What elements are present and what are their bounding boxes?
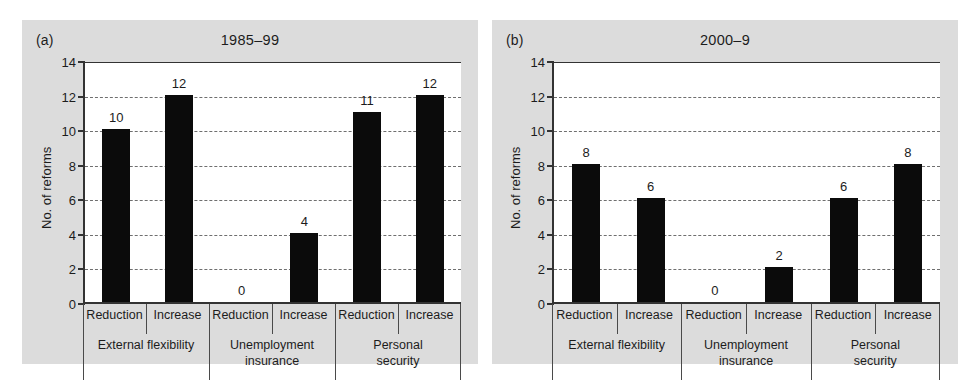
group-separator-a-1 — [209, 304, 210, 380]
sub-separator-b-0 — [617, 304, 618, 334]
bar-b-0-0: 8 — [572, 164, 600, 302]
gridline-b-10 — [554, 131, 940, 132]
ytick-mark-b-10 — [547, 130, 554, 132]
category-labels-a: ReductionIncreaseExternal flexibilityRed… — [83, 304, 461, 380]
gridline-a-12 — [85, 97, 461, 98]
sub-label-b-1-0: Reduction — [686, 308, 742, 322]
plot-canvas-a: 024681012141012041112 — [83, 62, 461, 304]
sub-separator-b-2 — [875, 304, 876, 334]
group-label-a-2: Personal security — [367, 338, 430, 369]
bar-a-0-1: 12 — [165, 95, 193, 302]
sub-label-a-0-0: Reduction — [86, 308, 142, 322]
ytick-label-b-10: 10 — [531, 124, 545, 139]
gridline-b-8 — [554, 166, 940, 167]
sub-label-a-0-1: Increase — [154, 308, 202, 322]
ytick-mark-a-6 — [78, 199, 85, 201]
group-label-b-2: Personal security — [843, 338, 908, 369]
bar-value-label-a-1-0: 0 — [238, 283, 245, 298]
gridline-a-6 — [85, 200, 461, 201]
sub-label-b-0-1: Increase — [625, 308, 673, 322]
gridline-b-6 — [554, 200, 940, 201]
gridline-b-2 — [554, 269, 940, 270]
sub-label-a-1-0: Reduction — [212, 308, 268, 322]
sub-label-b-0-0: Reduction — [556, 308, 612, 322]
group-separator-b-1 — [681, 304, 682, 380]
ytick-label-b-8: 8 — [538, 158, 545, 173]
sub-separator-a-2 — [398, 304, 399, 334]
bar-value-label-b-0-1: 6 — [647, 179, 654, 194]
y-axis-title-b: No. of reforms — [508, 147, 523, 229]
group-separator-a-0 — [83, 304, 84, 380]
ytick-label-a-4: 4 — [69, 227, 76, 242]
bar-a-2-0: 11 — [353, 112, 381, 302]
sub-separator-a-0 — [146, 304, 147, 334]
sub-label-b-2-1: Increase — [884, 308, 932, 322]
group-separator-a-2 — [335, 304, 336, 380]
ytick-label-b-2: 2 — [538, 262, 545, 277]
sub-separator-b-1 — [746, 304, 747, 334]
gridline-a-14 — [85, 62, 461, 63]
bar-value-label-a-0-1: 12 — [172, 76, 186, 91]
ytick-label-a-8: 8 — [69, 158, 76, 173]
gridline-b-4 — [554, 235, 940, 236]
sub-label-a-1-1: Increase — [280, 308, 328, 322]
group-label-a-0: External flexibility — [98, 338, 195, 354]
bar-value-label-b-1-0: 0 — [711, 283, 718, 298]
ytick-mark-a-4 — [78, 234, 85, 236]
chart-panel-b: (b)2000–902468101214860268No. of reforms… — [492, 20, 958, 364]
gridline-a-4 — [85, 235, 461, 236]
ytick-label-b-14: 14 — [531, 55, 545, 70]
group-separator-b-3 — [939, 304, 940, 380]
bar-value-label-b-2-1: 8 — [904, 145, 911, 160]
group-label-b-1: Unemployment insurance — [704, 338, 788, 369]
ytick-label-b-0: 0 — [538, 297, 545, 312]
gridline-a-8 — [85, 166, 461, 167]
bar-value-label-b-2-0: 6 — [840, 179, 847, 194]
ytick-mark-b-4 — [547, 234, 554, 236]
ytick-label-b-12: 12 — [531, 89, 545, 104]
bar-b-0-1: 6 — [637, 198, 665, 302]
y-axis-title-a: No. of reforms — [39, 147, 54, 229]
bar-value-label-a-1-1: 4 — [301, 214, 308, 229]
ytick-mark-b-8 — [547, 165, 554, 167]
ytick-label-a-6: 6 — [69, 193, 76, 208]
sub-label-a-2-0: Reduction — [338, 308, 394, 322]
ytick-label-b-4: 4 — [538, 227, 545, 242]
gridline-b-12 — [554, 97, 940, 98]
group-separator-a-3 — [460, 304, 461, 380]
ytick-label-a-2: 2 — [69, 262, 76, 277]
ytick-mark-a-10 — [78, 130, 85, 132]
chart-panel-a: (a)1985–99024681012141012041112No. of re… — [22, 20, 478, 364]
bar-value-label-a-2-1: 12 — [422, 76, 436, 91]
ytick-label-a-12: 12 — [62, 89, 76, 104]
ytick-label-a-10: 10 — [62, 124, 76, 139]
gridline-b-14 — [554, 62, 940, 63]
ytick-mark-a-8 — [78, 165, 85, 167]
group-label-a-1: Unemployment insurance — [230, 338, 314, 369]
ytick-label-a-14: 14 — [62, 55, 76, 70]
plot-canvas-b: 02468101214860268 — [552, 62, 940, 304]
ytick-mark-b-12 — [547, 96, 554, 98]
plot-area-a: 024681012141012041112No. of reforms — [83, 62, 461, 304]
bar-value-label-b-0-0: 8 — [583, 145, 590, 160]
bar-b-2-0: 6 — [830, 198, 858, 302]
ytick-label-a-0: 0 — [69, 297, 76, 312]
group-separator-b-0 — [552, 304, 553, 380]
panel-title-b: 2000–9 — [492, 32, 958, 48]
ytick-label-b-6: 6 — [538, 193, 545, 208]
bar-a-2-1: 12 — [416, 95, 444, 302]
sub-separator-a-1 — [272, 304, 273, 334]
ytick-mark-a-12 — [78, 96, 85, 98]
bar-b-2-1: 8 — [894, 164, 922, 302]
gridline-a-2 — [85, 269, 461, 270]
ytick-mark-b-14 — [547, 61, 554, 63]
sub-label-b-2-0: Reduction — [815, 308, 871, 322]
category-labels-b: ReductionIncreaseExternal flexibilityRed… — [552, 304, 940, 380]
ytick-mark-a-2 — [78, 268, 85, 270]
sub-label-a-2-1: Increase — [406, 308, 454, 322]
gridline-a-10 — [85, 131, 461, 132]
bar-value-label-a-2-0: 11 — [360, 93, 374, 108]
ytick-mark-a-14 — [78, 61, 85, 63]
group-separator-b-2 — [811, 304, 812, 380]
